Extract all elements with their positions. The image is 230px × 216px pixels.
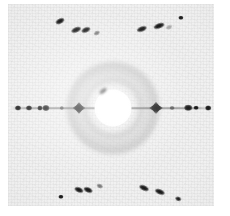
diffraction-plate: [8, 4, 214, 206]
diffraction-spot: [73, 102, 86, 114]
beamstop-disc: [95, 90, 132, 127]
diffraction-spot: [26, 105, 32, 110]
diffraction-spot: [37, 106, 42, 111]
diffraction-spot: [175, 196, 182, 202]
diffraction-spot: [60, 106, 64, 110]
diffraction-spot: [136, 25, 147, 33]
diffraction-spot: [153, 22, 165, 31]
diffraction-spot: [96, 183, 103, 189]
diffraction-spot: [184, 105, 192, 111]
diffraction-spot: [55, 17, 65, 25]
diffraction-spot: [83, 186, 93, 194]
diffraction-spot: [138, 184, 149, 193]
diffraction-spot: [81, 26, 91, 34]
diffraction-spot: [58, 195, 63, 199]
diffraction-spot: [74, 186, 84, 194]
diffraction-spot: [154, 188, 166, 197]
diffraction-spot: [205, 106, 211, 111]
diffraction-spot: [170, 106, 175, 110]
diffraction-spot: [178, 16, 183, 20]
diffraction-spot: [166, 24, 173, 30]
diffraction-spot: [15, 105, 21, 110]
diffraction-spot: [42, 105, 49, 111]
diffraction-spot: [71, 26, 82, 34]
diffraction-figure: [0, 0, 230, 216]
diffraction-spot: [149, 102, 163, 114]
diffraction-spot: [93, 30, 100, 36]
diffraction-spot: [194, 106, 199, 110]
